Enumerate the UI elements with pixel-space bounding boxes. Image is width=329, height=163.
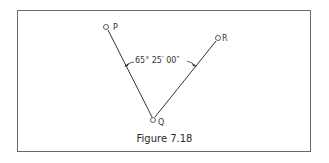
line-pq xyxy=(108,30,152,117)
point-q-icon xyxy=(151,118,156,123)
angle-label: 65° 25′ 00″ xyxy=(135,56,179,65)
label-r: R xyxy=(222,34,228,43)
figure-caption: Figure 7.18 xyxy=(0,133,329,144)
line-rq xyxy=(155,41,216,117)
point-r-icon xyxy=(216,36,221,41)
label-p: P xyxy=(113,23,118,32)
label-q: Q xyxy=(158,118,164,127)
point-p-icon xyxy=(104,25,109,30)
